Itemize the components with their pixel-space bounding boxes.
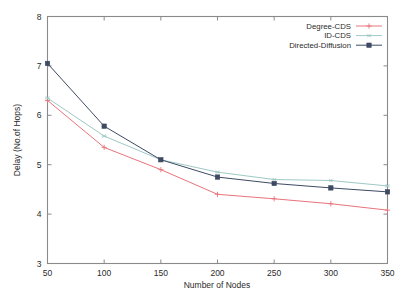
data-point (102, 124, 106, 128)
legend-label: Degree-CDS (306, 22, 351, 31)
data-point (159, 158, 163, 162)
legend-marker (367, 43, 371, 47)
y-tick-label: 3 (37, 259, 42, 269)
x-tick-label: 100 (97, 268, 111, 278)
y-tick-label: 8 (37, 12, 42, 22)
x-tick-label: 50 (43, 268, 53, 278)
x-axis-title: Number of Nodes (184, 280, 251, 290)
x-tick-label: 150 (154, 268, 168, 278)
data-point (272, 181, 276, 185)
x-tick-label: 200 (210, 268, 224, 278)
delay-vs-nodes-line-chart: 345678 50100150200250300350 Number of No… (0, 0, 414, 299)
x-tick-label: 300 (324, 268, 338, 278)
y-tick-label: 6 (37, 110, 42, 120)
x-tick-label: 350 (380, 268, 394, 278)
y-axis-title: Delay (No.of Hops) (12, 104, 22, 176)
data-point (329, 186, 333, 190)
data-point (215, 175, 219, 179)
data-point (45, 61, 49, 65)
data-point (385, 190, 389, 194)
y-tick-label: 5 (37, 160, 42, 170)
x-tick-label: 250 (267, 268, 281, 278)
legend-label: Directed-Diffusion (289, 41, 351, 50)
y-tick-label: 4 (37, 209, 42, 219)
legend-label: ID-CDS (324, 31, 351, 40)
chart-background (0, 0, 414, 299)
y-tick-label: 7 (37, 61, 42, 71)
chart-figure: 345678 50100150200250300350 Number of No… (0, 0, 414, 299)
